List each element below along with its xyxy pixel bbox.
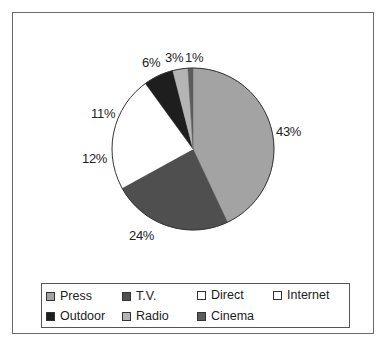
legend-item-direct: Direct	[197, 288, 244, 302]
legend-swatch-tv	[122, 292, 131, 301]
legend-item-internet: Internet	[273, 288, 329, 302]
legend-item-press: Press	[46, 289, 92, 303]
legend-swatch-cinema	[197, 312, 206, 321]
legend-swatch-outdoor	[46, 312, 55, 321]
slice-label-radio: 3%	[165, 50, 183, 65]
slice-label-internet: 11%	[91, 106, 115, 121]
slice-label-tv: 24%	[129, 228, 154, 243]
legend-swatch-internet	[273, 291, 282, 300]
legend: Press T.V. Direct Internet Outdoor Radio…	[41, 283, 350, 328]
slice-label-direct: 12%	[82, 151, 107, 166]
slice-label-cinema: 1%	[185, 50, 203, 65]
legend-swatch-press	[46, 292, 55, 301]
slice-label-outdoor: 6%	[142, 55, 160, 70]
legend-item-cinema: Cinema	[197, 309, 254, 323]
legend-item-radio: Radio	[122, 309, 169, 323]
legend-swatch-direct	[197, 291, 206, 300]
legend-swatch-radio	[122, 312, 131, 321]
legend-item-tv: T.V.	[122, 289, 156, 303]
slice-label-press: 43%	[276, 124, 301, 139]
legend-item-outdoor: Outdoor	[46, 309, 105, 323]
